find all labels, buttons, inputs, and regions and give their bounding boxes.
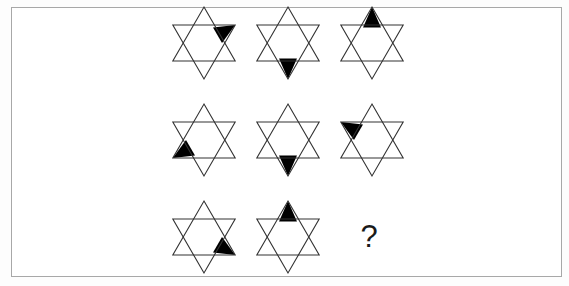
triangle-up xyxy=(257,104,319,158)
puzzle-grid: ? xyxy=(0,0,569,286)
hexagram-icon xyxy=(162,195,246,279)
hexagram-icon xyxy=(162,1,246,85)
triangle-down xyxy=(341,25,403,79)
star-3[interactable] xyxy=(330,1,414,85)
triangle-up xyxy=(257,7,319,61)
star-5[interactable] xyxy=(246,98,330,182)
triangle-down xyxy=(257,219,319,273)
hexagram-icon xyxy=(330,98,414,182)
hexagram-icon xyxy=(246,98,330,182)
answer-placeholder[interactable]: ? xyxy=(327,194,411,278)
star-8[interactable] xyxy=(246,195,330,279)
star-2[interactable] xyxy=(246,1,330,85)
puzzle-page: ? xyxy=(0,0,569,286)
hexagram-icon xyxy=(246,195,330,279)
hexagram-icon xyxy=(162,98,246,182)
hexagram-icon xyxy=(330,1,414,85)
star-4[interactable] xyxy=(162,98,246,182)
star-6[interactable] xyxy=(330,98,414,182)
hexagram-icon xyxy=(246,1,330,85)
question-mark-label: ? xyxy=(360,221,377,252)
star-1[interactable] xyxy=(162,1,246,85)
star-7[interactable] xyxy=(162,195,246,279)
